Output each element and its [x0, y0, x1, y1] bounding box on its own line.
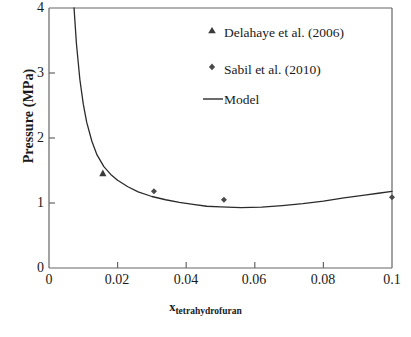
chart-figure: Pressure (MPa) 4 3 2 1 0 0 0.02 0.04 0.0… — [0, 0, 411, 337]
plot-area — [0, 0, 411, 337]
data-point-marker — [99, 170, 106, 177]
y-axis-ticks — [49, 73, 55, 203]
legend-marker-diamond-dot — [209, 64, 215, 71]
legend-marker-triangle — [208, 27, 216, 33]
data-point-marker — [389, 194, 395, 200]
data-point-marker — [151, 188, 157, 194]
x-axis-ticks — [118, 262, 324, 268]
model-curve-line — [74, 8, 392, 208]
data-point-marker — [221, 197, 227, 203]
axis-frame — [49, 8, 392, 268]
delahaye-data-points — [99, 170, 106, 177]
